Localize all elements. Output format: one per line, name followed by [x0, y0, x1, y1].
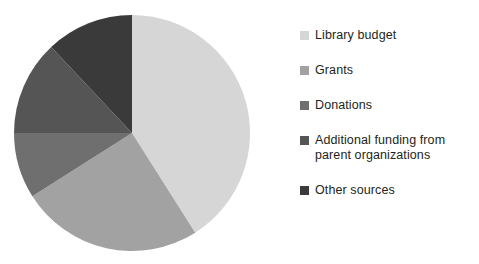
legend-item-donations[interactable]: Donations	[300, 98, 479, 113]
legend-item-label: Additional funding from parent organizat…	[315, 133, 445, 163]
pie-chart-figure: Library budget Grants Donations Addition…	[0, 0, 479, 264]
legend-item-label: Donations	[315, 98, 372, 113]
legend-item-label: Other sources	[315, 183, 395, 198]
legend-swatch-icon	[300, 101, 309, 110]
legend-swatch-icon	[300, 66, 309, 75]
pie-plot-area	[0, 0, 270, 264]
legend-item-grants[interactable]: Grants	[300, 63, 479, 78]
legend-item-additional-funding[interactable]: Additional funding from parent organizat…	[300, 133, 479, 163]
chart-legend: Library budget Grants Donations Addition…	[300, 28, 479, 198]
pie-slice-group	[14, 15, 250, 251]
legend-swatch-icon	[300, 136, 309, 145]
legend-item-library-budget[interactable]: Library budget	[300, 28, 479, 43]
legend-item-label: Library budget	[315, 28, 396, 43]
pie-svg	[0, 0, 270, 264]
legend-swatch-icon	[300, 31, 309, 40]
legend-swatch-icon	[300, 186, 309, 195]
legend-item-other-sources[interactable]: Other sources	[300, 183, 479, 198]
legend-item-label: Grants	[315, 63, 353, 78]
